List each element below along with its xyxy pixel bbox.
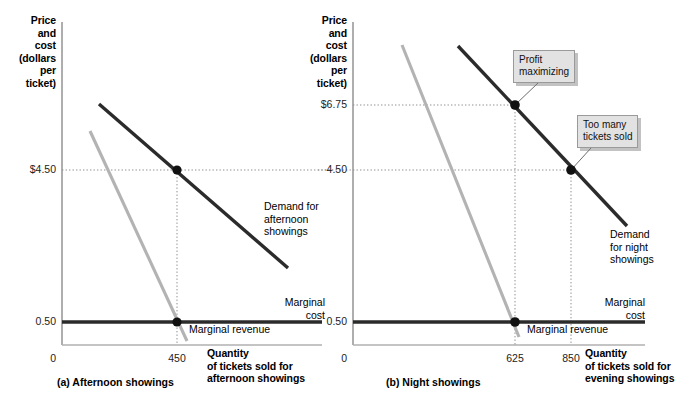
callout-line: Profit [519,54,569,66]
demand-curve-label-line: showings [264,225,319,238]
y-axis-title-line: and [0,27,56,40]
y-axis-title-line: ticket) [0,77,56,90]
marginal-revenue-curve [402,45,519,337]
marginal-cost-label-line: Marginal [588,296,645,309]
marginal-cost-label-line: Marginal [268,296,325,309]
marginal-cost-label: Marginal cost [588,296,645,321]
panel-caption-b: (b) Night showings [386,376,481,388]
marker-mr-equals-mc [172,317,181,326]
y-tick-label-origin: 0 [0,352,56,364]
callout-line: maximizing [519,66,569,78]
panel-caption-a: (a) Afternoon showings [57,376,174,388]
y-tick-label-450: 4.50 [291,163,347,175]
demand-curve-label-line: for night [610,241,654,254]
y-axis-title-line: (dollars [291,52,347,65]
marginal-cost-label-line: cost [588,309,645,322]
x-axis-title-line: of tickets sold for [585,360,679,373]
demand-curve-label: Demand for afternoon showings [264,200,319,238]
x-axis-title-line: afternoon showings [207,372,333,385]
demand-curve-label-line: afternoon [264,213,319,226]
callout-profit-maximizing: Profit maximizing [513,50,575,83]
x-axis-title-line: Quantity [585,347,679,360]
callout-too-many-tickets-sold: Too many tickets sold [577,115,638,148]
marker-mr-equals-mc [510,317,520,327]
marker-profit-maximizing [510,100,520,110]
panel-night-showings: Price and cost (dollars per ticket) $6.7… [333,0,666,410]
marker-too-many-tickets-sold [566,165,576,175]
y-axis-title-line: per [291,64,347,77]
y-axis-title-line: Price [291,14,347,27]
marginal-revenue-label: Marginal revenue [527,323,608,336]
y-axis-title-line: cost [291,39,347,52]
y-axis-title: Price and cost (dollars per ticket) [0,14,56,90]
y-axis-title-line: (dollars [0,52,56,65]
callout-line: Too many [583,119,632,131]
y-axis-title: Price and cost (dollars per ticket) [291,14,347,90]
x-tick-label-625: 625 [495,352,535,364]
y-axis-title-line: per [0,64,56,77]
x-axis-title: Quantity of tickets sold for evening sho… [585,347,679,385]
demand-curve [99,104,288,268]
y-tick-label-675: $6.75 [291,98,347,110]
demand-curve-label: Demand for night showings [610,228,654,266]
demand-curve-label-line: Demand [610,228,654,241]
y-axis-title-line: Price [0,14,56,27]
marginal-revenue-label: Marginal revenue [189,323,270,336]
y-tick-label-origin: 0 [291,352,347,364]
panel-afternoon-showings: Price and cost (dollars per ticket) $4.5… [0,0,333,410]
y-tick-label-450: $4.50 [0,163,56,175]
y-axis-title-line: cost [0,39,56,52]
x-tick-label-450: 450 [157,352,197,364]
y-axis-title-line: ticket) [291,77,347,90]
y-axis-title-line: and [291,27,347,40]
y-tick-label-050: 0.50 [0,315,56,327]
demand-curve-label-line: Demand for [264,200,319,213]
callout-line: tickets sold [583,131,632,143]
demand-curve-label-line: showings [610,253,654,266]
marker-price-point [172,165,181,174]
marginal-revenue-curve [90,131,187,341]
x-axis-title-line: evening showings [585,372,679,385]
y-tick-label-050: 0.50 [291,315,347,327]
